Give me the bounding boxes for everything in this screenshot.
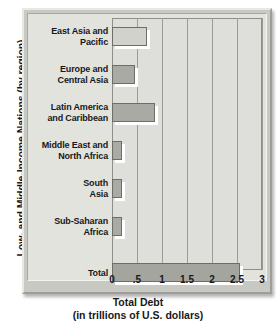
category-label-line: Asia <box>8 189 108 200</box>
gridline-2.5 <box>237 18 238 270</box>
category-label-line: Africa <box>8 227 108 238</box>
category-label-europe-and-central-asia: Europe andCentral Asia <box>8 64 108 86</box>
bar-latin-america-and-caribbean <box>112 103 155 122</box>
bar-east-asia-and-pacific <box>112 27 147 46</box>
category-label-line: Europe and <box>8 64 108 75</box>
bar-south-asia <box>112 179 122 198</box>
category-label-line: Sub-Saharan <box>8 216 108 227</box>
category-label-south-asia: SouthAsia <box>8 178 108 200</box>
bar-europe-and-central-asia <box>112 65 135 84</box>
category-label-line: South <box>8 178 108 189</box>
category-label-east-asia-and-pacific: East Asia andPacific <box>8 26 108 48</box>
x-axis-title-line2: (in trillions of U.S. dollars) <box>0 309 276 322</box>
category-label-sub-saharan-africa: Sub-SaharanAfrica <box>8 216 108 238</box>
category-label-line: North Africa <box>8 151 108 162</box>
x-tick-label-3: 3 <box>247 274 276 285</box>
category-label-latin-america-and-caribbean: Latin Americaand Caribbean <box>8 102 108 124</box>
category-label-line: Pacific <box>8 37 108 48</box>
chart-figure: Low- and Middle-Income Nations (by regio… <box>0 0 276 327</box>
gridline-.5 <box>137 18 138 270</box>
category-label-middle-east-and-north-africa: Middle East andNorth Africa <box>8 140 108 162</box>
category-label-total: Total <box>8 268 108 279</box>
bar-middle-east-and-north-africa <box>112 141 122 160</box>
x-axis-title: Total Debt (in trillions of U.S. dollars… <box>0 296 276 322</box>
x-axis-title-line1: Total Debt <box>113 296 164 308</box>
category-label-line: Middle East and <box>8 140 108 151</box>
gridline-1 <box>162 18 163 270</box>
gridline-1.5 <box>187 18 188 270</box>
category-label-line: Total <box>8 268 108 279</box>
category-label-line: and Caribbean <box>8 113 108 124</box>
gridline-3 <box>262 18 263 270</box>
bar-sub-saharan-africa <box>112 217 122 236</box>
category-label-line: East Asia and <box>8 26 108 37</box>
plot-area <box>112 18 262 270</box>
gridline-2 <box>212 18 213 270</box>
category-label-line: Central Asia <box>8 75 108 86</box>
category-label-line: Latin America <box>8 102 108 113</box>
